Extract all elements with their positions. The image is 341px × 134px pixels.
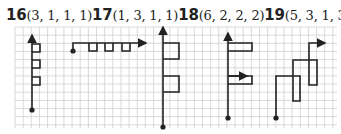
start-dot-19 bbox=[225, 115, 230, 120]
start-dot-17 bbox=[70, 48, 75, 53]
start-dot-16 bbox=[29, 107, 34, 112]
spiral-19 bbox=[228, 33, 252, 118]
start-dot-20 bbox=[273, 115, 278, 120]
spiral-17 bbox=[73, 43, 146, 51]
spiral-16 bbox=[32, 35, 40, 110]
spiral-18 bbox=[163, 27, 179, 127]
grid-diagram bbox=[0, 0, 341, 134]
start-dot-18 bbox=[160, 124, 165, 129]
graph-paper-grid bbox=[15, 27, 337, 128]
